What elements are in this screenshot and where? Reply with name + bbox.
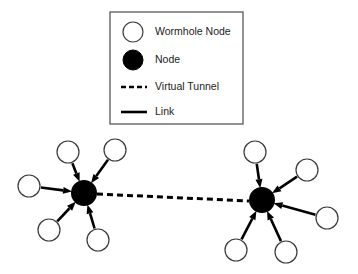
- wormhole-node-hub: [71, 180, 97, 206]
- network-node: [57, 141, 79, 163]
- network-node: [104, 139, 126, 161]
- wormhole-diagram-figure: Wormhole NodeNodeVirtual TunnelLink: [0, 0, 358, 274]
- legend-label-link: Link: [155, 105, 175, 117]
- legend-label-node: Node: [155, 53, 180, 65]
- legend: Wormhole NodeNodeVirtual TunnelLink: [110, 12, 243, 124]
- network-node: [225, 239, 247, 261]
- legend-marker-filled-circle: [123, 50, 143, 70]
- legend-label-virtual-tunnel: Virtual Tunnel: [155, 80, 219, 92]
- legend-label-wormhole-node: Wormhole Node: [155, 25, 231, 37]
- network-node: [18, 175, 40, 197]
- diagram-canvas: Wormhole NodeNodeVirtual TunnelLink: [0, 0, 358, 274]
- network-node: [38, 219, 60, 241]
- network-node: [244, 141, 266, 163]
- wormhole-node-hub: [249, 187, 275, 213]
- network-node: [316, 207, 338, 229]
- network-node: [275, 241, 297, 263]
- network-node: [87, 229, 109, 251]
- network-node: [296, 159, 318, 181]
- legend-marker-open-circle: [123, 22, 143, 42]
